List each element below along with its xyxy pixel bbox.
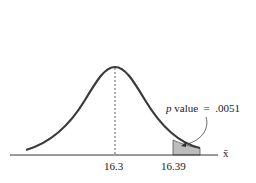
p-value-label: p value = .0051 — [166, 102, 240, 114]
normal-distribution-chart — [0, 0, 256, 183]
tick-label-critical: 16.39 — [161, 160, 186, 172]
tick-label-mean: 16.3 — [104, 160, 123, 172]
annotation-arrow — [183, 117, 207, 145]
x-axis-label: x̄ — [223, 147, 229, 159]
p-value-text: value = .0051 — [172, 102, 241, 114]
